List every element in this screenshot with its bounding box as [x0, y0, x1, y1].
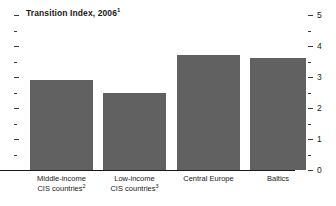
axis-tick-left [14, 124, 17, 125]
axis-tick-left [14, 77, 19, 78]
axis-tick-right [308, 124, 311, 125]
category-label-line: CIS countries2 [30, 184, 93, 194]
axis-tick-left [14, 62, 17, 63]
chart-title: Transition Index, 20061 [26, 8, 120, 18]
category-label: Low-incomeCIS countries3 [103, 174, 166, 194]
axis-tick-label: 1 [317, 134, 322, 144]
chart-title-text: Transition Index, 2006 [26, 8, 117, 18]
axis-tick-label: 5 [317, 10, 322, 20]
axis-tick-label: 4 [317, 41, 322, 51]
bar [103, 93, 166, 171]
axis-tick-right [308, 15, 313, 16]
axis-tick-left [14, 139, 19, 140]
axis-tick-left [14, 155, 17, 156]
axis-tick-left [14, 108, 19, 109]
axis-tick-label: 0 [317, 165, 322, 175]
axis-tick-left [14, 15, 19, 16]
axis-tick-right [308, 31, 311, 32]
axis-tick-left [14, 93, 17, 94]
category-label-line: CIS countries3 [103, 184, 166, 194]
axis-tick-left [14, 31, 17, 32]
axis-tick-right [308, 93, 311, 94]
axis-tick-right [308, 62, 311, 63]
chart-figure: Transition Index, 20061 543210 Middle-in… [0, 0, 336, 206]
axis-tick-left [14, 46, 19, 47]
category-label-line: Baltics [250, 174, 306, 184]
category-label: Middle-incomeCIS countries2 [30, 174, 93, 194]
axis-tick-label: 2 [317, 103, 322, 113]
category-label: Baltics [250, 174, 306, 184]
category-footnote-marker: 3 [155, 183, 158, 189]
axis-tick-right [308, 46, 313, 47]
chart-title-footnote-marker: 1 [117, 7, 120, 13]
bar [250, 58, 306, 170]
bar [177, 55, 240, 170]
axis-tick-right [308, 155, 311, 156]
bar [30, 80, 93, 170]
axis-tick-right [308, 108, 313, 109]
axis-baseline [0, 170, 295, 171]
axis-tick-right [308, 139, 313, 140]
axis-tick-right [308, 77, 313, 78]
category-footnote-marker: 2 [82, 183, 85, 189]
category-label-line: Central Europe [177, 174, 240, 184]
axis-tick-label: 3 [317, 72, 322, 82]
category-label: Central Europe [177, 174, 240, 184]
axis-tick-right [308, 170, 313, 171]
